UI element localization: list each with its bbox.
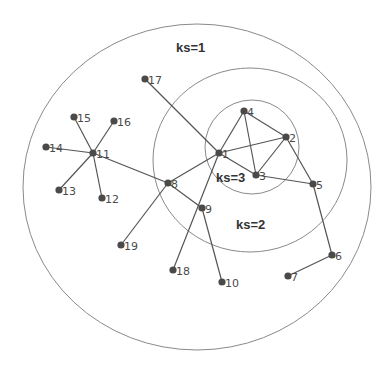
node-10: 10 <box>218 277 239 290</box>
node-label: 7 <box>291 271 298 284</box>
node-6: 6 <box>328 250 342 263</box>
shell-label: ks=1 <box>176 40 205 55</box>
node-5: 5 <box>309 179 323 192</box>
node-label: 11 <box>96 148 110 161</box>
edge-17-1 <box>145 79 219 153</box>
node-16: 16 <box>110 116 131 129</box>
node-2: 2 <box>282 132 296 145</box>
node-9: 9 <box>198 203 212 216</box>
k-shell-diagram: 12345678910111213141516171819 ks=1ks=2ks… <box>0 0 388 373</box>
node-3: 3 <box>252 170 266 183</box>
node-label: 10 <box>225 277 239 290</box>
node-label: 9 <box>205 203 212 216</box>
node-18: 18 <box>169 265 190 278</box>
edge-8-19 <box>121 183 168 245</box>
node-label: 4 <box>247 106 254 119</box>
edge-4-3 <box>244 111 256 175</box>
node-19: 19 <box>117 240 138 253</box>
node-11: 11 <box>89 148 110 161</box>
node-label: 1 <box>222 148 229 161</box>
node-14: 14 <box>42 142 63 155</box>
graph-edges <box>46 79 332 282</box>
shell-label: ks=2 <box>236 217 265 232</box>
node-label: 18 <box>176 265 190 278</box>
node-label: 2 <box>289 132 296 145</box>
edge-1-18 <box>173 153 219 270</box>
node-label: 14 <box>49 142 63 155</box>
node-label: 16 <box>117 116 131 129</box>
node-12: 12 <box>98 193 119 206</box>
edge-9-10 <box>202 208 222 282</box>
node-13: 13 <box>55 185 76 198</box>
node-label: 12 <box>105 193 119 206</box>
node-17: 17 <box>141 74 162 87</box>
node-label: 15 <box>77 112 91 125</box>
shell-label: ks=3 <box>216 170 245 185</box>
node-15: 15 <box>70 112 91 125</box>
node-label: 8 <box>171 178 178 191</box>
node-label: 3 <box>259 170 266 183</box>
node-1: 1 <box>215 148 229 161</box>
node-label: 5 <box>316 179 323 192</box>
node-7: 7 <box>284 271 298 284</box>
edge-1-4 <box>219 111 244 153</box>
shell-labels: ks=1ks=2ks=3 <box>176 40 265 232</box>
node-label: 6 <box>335 250 342 263</box>
node-label: 19 <box>124 240 138 253</box>
node-label: 13 <box>62 185 76 198</box>
node-label: 17 <box>148 74 162 87</box>
node-8: 8 <box>164 178 178 191</box>
edge-5-6 <box>313 184 332 255</box>
node-4: 4 <box>240 106 254 119</box>
